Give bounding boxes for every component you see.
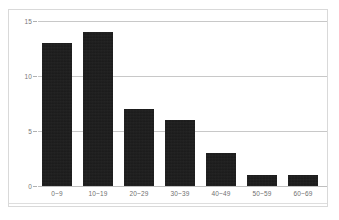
bar-10-19[interactable] (83, 32, 113, 186)
frame-bottom-divider (9, 203, 327, 204)
bar-40-49[interactable] (206, 153, 236, 186)
x-tick-label-20-29: 20~29 (122, 189, 156, 198)
x-tick-label-30-39: 30~39 (163, 189, 197, 198)
x-tick-label-40-49: 40~49 (204, 189, 238, 198)
chart-screenshot: 15 10 5 0 0~9 10~19 20~29 30~39 40~49 50… (0, 0, 339, 220)
bar-series (38, 21, 327, 186)
tick-15 (33, 21, 37, 22)
tick-5 (33, 131, 37, 132)
x-tick-label-60-69: 60~69 (286, 189, 320, 198)
x-axis-line (38, 186, 327, 187)
y-tick-label-0: 0 (28, 183, 32, 190)
bar-0-9[interactable] (42, 43, 72, 186)
bar-20-29[interactable] (124, 109, 154, 186)
y-tick-label-15: 15 (25, 18, 32, 25)
bar-50-59[interactable] (247, 175, 277, 186)
y-tick-label-5: 5 (28, 128, 32, 135)
y-axis: 15 10 5 0 (8, 21, 32, 186)
x-tick-label-10-19: 10~19 (81, 189, 115, 198)
tick-10 (33, 76, 37, 77)
x-tick-label-0-9: 0~9 (42, 189, 72, 198)
y-tick-label-10: 10 (25, 73, 32, 80)
bar-30-39[interactable] (165, 120, 195, 186)
x-axis: 0~9 10~19 20~29 30~39 40~49 50~59 60~69 (38, 189, 327, 203)
tick-0 (33, 186, 37, 187)
x-tick-label-50-59: 50~59 (245, 189, 279, 198)
bar-60-69[interactable] (288, 175, 318, 186)
